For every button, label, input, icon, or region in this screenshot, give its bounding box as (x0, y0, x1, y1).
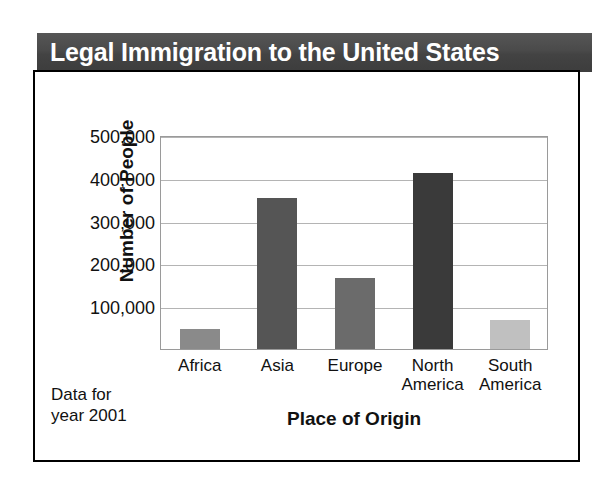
x-axis-tick-label: Africa (161, 356, 239, 375)
gridline (161, 180, 547, 181)
y-axis-tick-label: 300,000 (90, 212, 155, 233)
y-axis-tick-label: 100,000 (90, 298, 155, 319)
x-axis-tick-label-line: South (471, 356, 549, 375)
gridline (161, 137, 547, 138)
x-axis-tick-label-line: Africa (161, 356, 239, 375)
data-year-note: Data for year 2001 (51, 384, 127, 427)
bar (413, 173, 453, 349)
x-axis-tick-label: NorthAmerica (394, 356, 472, 394)
chart-title: Legal Immigration to the United States (50, 38, 499, 67)
x-axis-tick-label: Asia (239, 356, 317, 375)
bar (490, 320, 530, 349)
chart-panel: Number of People 100,000200,000300,00040… (33, 70, 580, 462)
chart-title-banner: Legal Immigration to the United States (37, 33, 592, 72)
y-axis-tick-label: 200,000 (90, 255, 155, 276)
data-year-note-line1: Data for (51, 384, 127, 405)
chart-figure: Legal Immigration to the United States N… (0, 0, 615, 500)
bar (257, 198, 297, 349)
y-axis-tick-label: 400,000 (90, 169, 155, 190)
x-axis-tick-label-line: America (471, 375, 549, 394)
bar (180, 329, 220, 349)
x-axis-tick-label-line: Europe (316, 356, 394, 375)
x-axis-tick-label: SouthAmerica (471, 356, 549, 394)
x-axis-tick-label-line: Asia (239, 356, 317, 375)
x-axis-tick-label: Europe (316, 356, 394, 375)
plot-area: 100,000200,000300,000400,000500,000 Afri… (160, 136, 548, 350)
x-axis-title: Place of Origin (160, 408, 548, 430)
data-year-note-line2: year 2001 (51, 405, 127, 426)
gridline (161, 223, 547, 224)
x-axis-tick-label-line: North (394, 356, 472, 375)
y-axis-tick-label: 500,000 (90, 127, 155, 148)
x-axis-tick-label-line: America (394, 375, 472, 394)
gridline (161, 265, 547, 266)
bar (335, 278, 375, 349)
